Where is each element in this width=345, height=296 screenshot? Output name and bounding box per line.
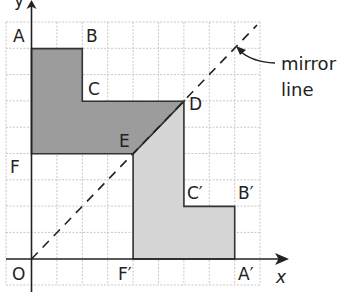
label-x-axis: x xyxy=(275,267,287,287)
label-c-prime: C′ xyxy=(187,183,203,203)
label-y-axis: y xyxy=(14,0,24,10)
label-c: C xyxy=(88,79,100,99)
label-a-prime: A′ xyxy=(238,264,254,284)
label-f-prime: F′ xyxy=(118,264,132,284)
mirror-line-label-line2: line xyxy=(281,79,313,100)
label-d: D xyxy=(189,94,202,114)
label-b-prime: B′ xyxy=(238,183,254,203)
label-f: F xyxy=(10,157,20,177)
label-a: A xyxy=(13,26,25,46)
mirror-line-label-line1: mirror xyxy=(281,53,337,74)
label-origin: O xyxy=(12,264,25,284)
label-e: E xyxy=(119,131,130,151)
label-b: B xyxy=(86,26,98,46)
reflection-diagram: y A B C D E F C′ B′ O F′ A′ x mirror lin… xyxy=(0,0,345,296)
mirror-line-pointer-arrow xyxy=(240,51,275,63)
